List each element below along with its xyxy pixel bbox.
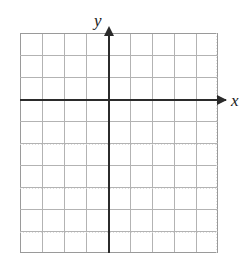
x-axis	[20, 99, 226, 101]
x-axis-label: x	[231, 92, 239, 109]
grid-line-horizontal	[20, 33, 218, 34]
grid-plate	[20, 33, 218, 253]
grid-line-horizontal-faint	[20, 188, 218, 189]
y-axis	[108, 35, 110, 253]
y-axis-arrow-icon	[104, 26, 114, 36]
grid-line-horizontal-faint	[20, 144, 218, 145]
grid-line-horizontal	[20, 121, 218, 122]
grid-line-horizontal	[20, 55, 218, 56]
x-axis-arrow-icon	[217, 95, 227, 105]
grid-line-horizontal-faint	[20, 232, 218, 233]
coordinate-plane-figure: x y	[0, 0, 251, 261]
grid-line-horizontal	[20, 77, 218, 78]
grid-line-horizontal	[20, 252, 218, 253]
grid-line-horizontal	[20, 209, 218, 210]
grid-line-horizontal	[20, 165, 218, 166]
y-axis-label: y	[94, 12, 102, 29]
grid-line-vertical-faint	[216, 33, 217, 253]
